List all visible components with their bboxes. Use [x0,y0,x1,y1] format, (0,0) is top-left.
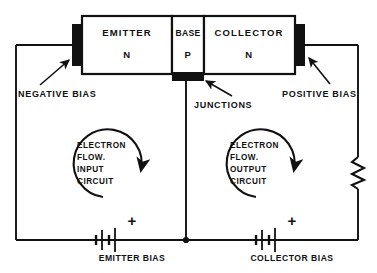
emitter-bias-battery: + EMITTER BIAS [96,212,165,263]
input-flow-line3: INPUT [77,165,104,174]
load-resistor [352,157,364,189]
input-flow-line1: ELECTRON [77,141,126,150]
base-block [172,16,204,74]
positive-bias-label: POSITIVE BIAS [282,89,357,99]
collector-doping-label: N [245,49,252,60]
junctions-label: JUNCTIONS [194,100,252,110]
emitter-terminal-tab [72,24,83,66]
input-flow-arc [74,129,142,197]
junctions-callout: JUNCTIONS [194,81,252,110]
base-label: BASE [175,28,200,38]
output-flow-line3: OUTPUT [230,165,267,174]
negative-bias-arrow [40,60,69,85]
emitter-doping-label: N [123,49,130,60]
emitter-block [82,16,172,74]
collector-bias-label: COLLECTOR BIAS [250,253,333,263]
emitter-label: EMITTER [102,27,151,38]
emitter-bias-label: EMITTER BIAS [99,253,166,263]
junctions-arrow [206,81,232,96]
input-flow-line2: FLOW. [77,153,105,162]
collector-bias-battery: + COLLECTOR BIAS [250,212,333,263]
collector-label: COLLECTOR [215,27,284,38]
input-electron-flow-indicator: ELECTRON FLOW. INPUT CIRCUIT [74,129,142,197]
base-terminal-tab [172,72,204,81]
base-node-dot [183,237,189,243]
collector-battery-positive-sign: + [288,212,297,229]
collector-terminal-tab [294,24,305,66]
positive-bias-arrow [309,58,330,84]
npn-transistor-bias-diagram: EMITTER N BASE P COLLECTOR N NEGATIVE BI… [0,0,377,273]
resistor-zigzag [352,157,364,189]
collector-block [204,16,295,74]
negative-bias-label: NEGATIVE BIAS [18,89,96,99]
output-flow-line4: CIRCUIT [230,177,267,186]
input-flow-line4: CIRCUIT [77,177,114,186]
diagram-canvas: EMITTER N BASE P COLLECTOR N NEGATIVE BI… [0,0,377,273]
output-flow-arc [227,129,295,197]
base-doping-label: P [185,49,192,60]
output-flow-line1: ELECTRON [230,141,279,150]
emitter-battery-positive-sign: + [128,212,137,229]
output-flow-line2: FLOW. [230,153,258,162]
output-electron-flow-indicator: ELECTRON FLOW. OUTPUT CIRCUIT [227,129,295,197]
